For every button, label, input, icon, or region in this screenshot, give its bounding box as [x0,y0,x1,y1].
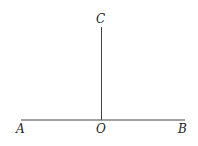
label-c: C [96,12,105,26]
label-o: O [96,122,106,136]
geometry-diagram: C A O B [0,0,198,146]
label-a: A [15,122,25,136]
label-b: B [177,122,187,136]
